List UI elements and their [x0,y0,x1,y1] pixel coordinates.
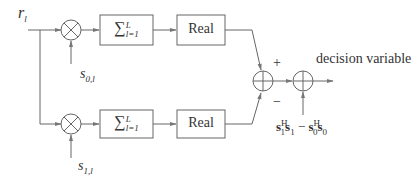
output-label: decision variable [316,51,411,67]
s1-label: s1,l [78,158,93,174]
real-label-bottom: Real [177,115,225,131]
s0-label: s0,l [80,66,95,82]
multiply-icon-top [64,23,78,37]
bottom-to-adder-line [225,93,261,124]
sum-label-bottom: ∑Ll=1 [100,113,153,133]
top-to-adder-line [225,30,261,70]
plus-sign: + [273,55,281,71]
bias-term: sH1s1 − sH0s0 [276,119,327,135]
sum-label-top: ∑Ll=1 [100,19,153,39]
multiply-icon-bottom [64,117,78,131]
real-label-top: Real [177,21,225,37]
input-label: rl [18,4,27,22]
minus-sign: − [273,94,281,110]
input-line-bottom [40,30,61,124]
